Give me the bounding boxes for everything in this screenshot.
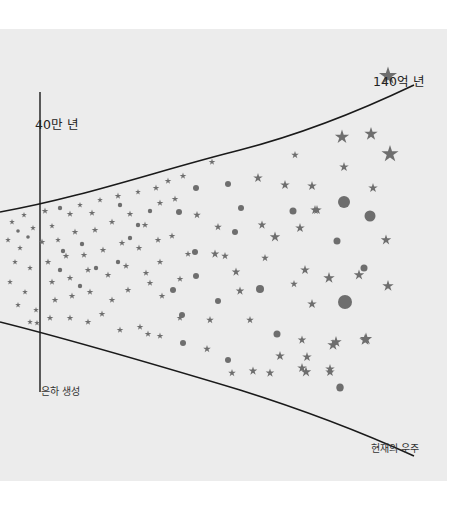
star-icon bbox=[203, 67, 398, 377]
present-age-label: 140억 년 bbox=[373, 71, 425, 90]
upper-boundary-line bbox=[0, 85, 414, 212]
galaxy-formation-label: 은하 생성 bbox=[41, 383, 80, 398]
recombination-label: 40만 년 bbox=[35, 114, 79, 133]
present-universe-label: 현재의 우주 bbox=[371, 440, 419, 455]
